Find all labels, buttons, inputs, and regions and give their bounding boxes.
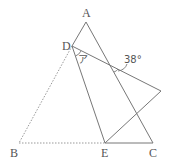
label-angle-38: 38° — [124, 54, 142, 65]
label-b: B — [10, 146, 18, 160]
label-a: A — [82, 6, 91, 20]
angle-arc-38 — [114, 69, 118, 72]
edge-db-dashed — [19, 46, 72, 143]
edge-ad — [72, 22, 86, 46]
label-angle-unknown: ア — [78, 54, 88, 65]
edge-e-bprime — [105, 91, 161, 143]
geometry-diagram: A D B E C ア 38° — [0, 0, 176, 165]
edge-ac — [86, 22, 153, 143]
label-c: C — [149, 146, 157, 160]
label-d: D — [62, 39, 71, 53]
label-e: E — [101, 146, 108, 160]
